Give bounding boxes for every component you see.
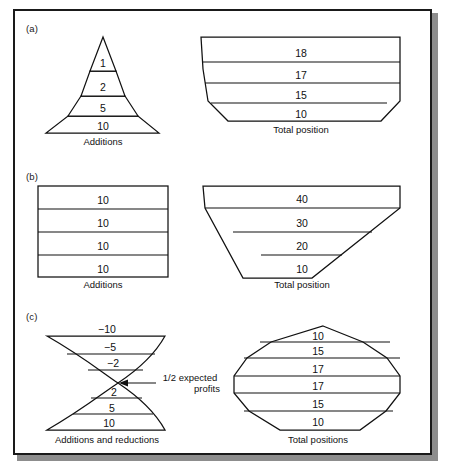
panel-b-value-4: 10 [97,263,109,275]
panel-b-additions-chart: 10 10 10 10 Additions [38,186,168,290]
panel-a-value-2: 2 [100,81,106,93]
panel-b-value-2: 10 [97,217,109,229]
panel-b-value-1: 10 [97,194,109,206]
panel-a-right-value-3: 15 [295,89,307,101]
annotation-text-line1: 1/2 expected [163,372,217,383]
panel-b-right-caption: Total position [274,279,329,290]
panel-a-value-1: 1 [100,57,106,69]
figure-container: (a) 10 5 2 1 Additions [0,0,449,473]
panel-b-right-value-3: 20 [296,240,308,252]
panel-b-value-3: 10 [97,240,109,252]
panel-a-left-caption: Additions [83,136,122,147]
panel-c-label: (c) [26,311,38,322]
panel-a-value-3: 5 [100,102,106,114]
panel-c-value-3: −2 [107,357,119,369]
panel-c-right-value-2: 15 [312,345,324,357]
figure-frame: (a) 10 5 2 1 Additions [13,9,432,455]
panel-b-right-value-2: 30 [296,217,308,229]
panel-c-value-5: 5 [109,402,115,414]
panel-c-total-positions-chart: 10 15 17 17 15 10 Total positions [234,326,400,445]
panel-c-right-value-6: 10 [312,416,324,428]
panel-diagrams-svg: 10 5 2 1 Additions 18 17 15 10 Total pos… [15,11,430,453]
panel-b-left-caption: Additions [83,279,122,290]
panel-a-right-value-1: 18 [295,47,307,59]
panel-b-total-position-chart: 40 30 20 10 Total position [203,186,400,290]
panel-a-value-4: 10 [97,120,109,132]
panel-c-value-4: 2 [111,386,117,398]
panel-a-additions-chart: 10 5 2 1 Additions [46,37,159,147]
panel-c-left-caption: Additions and reductions [55,434,159,445]
panel-b-label: (b) [26,171,38,182]
panel-c-right-value-1: 10 [312,330,324,342]
panel-a-right-caption: Total position [273,124,328,135]
panel-c-right-caption: Total positions [288,434,348,445]
panel-a-total-position-chart: 18 17 15 10 Total position [201,37,400,135]
panel-c-right-value-3: 17 [312,363,324,375]
panel-a-right-value-2: 17 [295,69,307,81]
panel-c-value-1: −10 [98,323,116,335]
panel-c-right-value-4: 17 [312,380,324,392]
panel-c-value-6: 10 [103,417,115,429]
panel-c-right-value-5: 15 [312,398,324,410]
panel-c-value-2: −5 [104,341,116,353]
panel-a-right-value-4: 10 [295,108,307,120]
panel-b-right-value-4: 10 [296,263,308,275]
panel-c-additions-reductions-chart: −10 −5 −2 2 5 10 Additions and reduction… [47,323,220,445]
annotation-text-line2: profits [194,383,220,394]
panel-b-right-value-1: 40 [296,193,308,205]
expected-profits-annotation: 1/2 expected profits [119,372,220,394]
